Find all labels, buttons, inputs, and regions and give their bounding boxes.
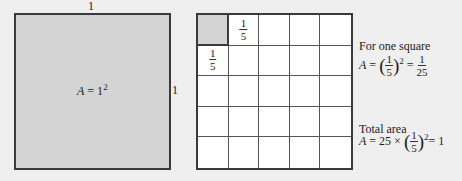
top-side-length-label: 1 [88,0,94,14]
grid-cell [259,137,290,168]
grid-cell [290,137,321,168]
top-cell-width-fraction: 1 5 [240,18,248,42]
one-fifth-fraction: 15 [410,130,418,154]
grid-cell [290,76,321,107]
left-cell-height-fraction: 1 5 [209,48,217,72]
grid-cell [290,46,321,77]
one-square-area-formula: A = (15)2 = 125 [359,54,428,78]
grid-cell [320,15,351,46]
unit-square-area-formula: A = 12 [77,82,108,99]
fraction-numerator: 1 [240,18,248,30]
equals-sign: = [366,58,379,72]
grid-cell [259,107,290,138]
one-twenty-fifth-fraction: 125 [417,54,428,78]
grid-cell [198,76,229,107]
fraction-denominator: 5 [241,30,247,42]
right-side-length-label: 1 [172,83,178,98]
one-square-title: For one square [359,39,430,54]
grid-cell [320,76,351,107]
fraction-numerator: 1 [209,48,217,60]
equals-twenty-five-times: = 25 × [366,134,404,148]
fraction-denominator: 5 [411,142,417,154]
grid-cell [259,15,290,46]
grid-cell [198,137,229,168]
fraction-numerator: 1 [418,54,426,66]
area-exponent: 2 [103,82,108,92]
grid-cell [229,76,260,107]
grid-cell [290,107,321,138]
fraction-numerator: 1 [410,130,418,142]
shaded-grid-cell [198,15,229,46]
fraction-denominator: 5 [386,66,392,78]
grid-cell [198,107,229,138]
area-equals: = 1 [84,84,103,98]
grid-cell [259,76,290,107]
grid-cell [320,137,351,168]
grid-cell: 1 5 [229,15,260,46]
total-result: = 1 [429,134,445,148]
grid-cell [290,15,321,46]
grid-cell [320,46,351,77]
grid-cell [229,46,260,77]
total-area-formula: A = 25 × (15)2= 1 [359,130,444,154]
grid-cell [229,137,260,168]
fraction-denominator: 25 [417,66,428,78]
subdivided-grid: 1 5 1 5 [196,13,353,170]
one-fifth-fraction: 15 [385,54,393,78]
grid-cell: 1 5 [198,46,229,77]
equals-sign: = [404,58,417,72]
fraction-denominator: 5 [210,60,216,72]
grid-cell [259,46,290,77]
fraction-numerator: 1 [385,54,393,66]
grid-cell [229,107,260,138]
grid-cell [320,107,351,138]
